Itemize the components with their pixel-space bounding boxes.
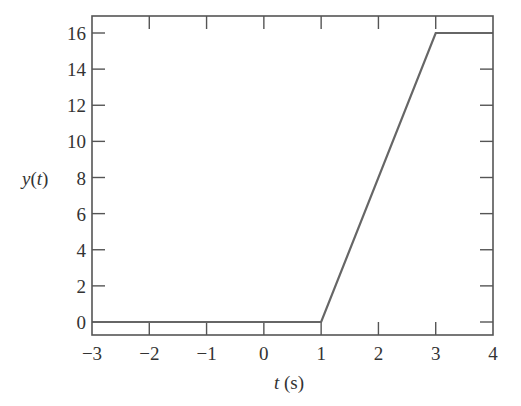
y-tick-label: 8 [77,168,87,189]
x-tick-label: 1 [316,343,326,364]
x-tick-label: −3 [82,343,102,364]
chart: −3−2−1012340246810121416 y(t) t (s) [0,0,521,406]
data-line [92,33,493,322]
y-axis-label: y(t) [20,168,48,190]
y-tick-label: 2 [77,276,87,297]
y-tick-label: 0 [77,312,87,333]
plot-frame [92,16,493,335]
y-tick-label: 6 [77,204,87,225]
y-tick-label: 12 [67,95,86,116]
y-tick-label: 10 [67,131,86,152]
x-tick-label: 2 [374,343,384,364]
axis-ticks [92,16,493,335]
y-tick-label: 16 [67,23,86,44]
x-tick-label: 4 [488,343,498,364]
x-tick-label: −1 [196,343,216,364]
x-tick-label: 0 [259,343,269,364]
y-tick-label: 4 [77,240,87,261]
x-tick-label: −2 [139,343,159,364]
y-tick-label: 14 [67,59,87,80]
x-tick-label: 3 [431,343,441,364]
x-axis-label: t (s) [274,372,304,394]
tick-labels: −3−2−1012340246810121416 [67,23,498,364]
